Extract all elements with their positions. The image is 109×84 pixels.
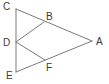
point-label-d: D (3, 37, 10, 48)
geometry-diagram: A B C D E F (0, 0, 109, 84)
segment-ea (16, 41, 92, 72)
segment-df (16, 42, 45, 60)
point-label-e: E (6, 70, 13, 81)
segment-db (16, 22, 44, 42)
point-label-a: A (96, 36, 103, 47)
segment-ca (16, 9, 92, 41)
point-label-f: F (46, 62, 52, 73)
segments (16, 9, 92, 72)
point-label-c: C (3, 1, 10, 12)
point-label-b: B (46, 11, 53, 22)
